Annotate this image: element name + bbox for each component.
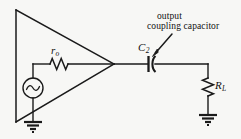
ro-zigzag <box>50 59 68 70</box>
rl-zigzag <box>203 78 214 96</box>
amplifier-bottom-edge <box>16 64 114 122</box>
label-ro-main: r <box>51 44 55 56</box>
ground-left-icon <box>24 122 42 132</box>
annotation-line-coupling-capacitor: coupling capacitor <box>147 21 219 32</box>
label-c2-sub: 2 <box>146 46 150 55</box>
ground-right-icon <box>199 115 217 125</box>
resistor-ro <box>33 59 114 70</box>
label-resistor-ro: ro <box>51 44 59 56</box>
label-capacitor-c2: C2 <box>138 41 149 53</box>
load-branch <box>203 64 214 115</box>
label-resistor-rl: RL <box>215 79 226 91</box>
ac-source-branch <box>23 64 43 122</box>
sine-wave-icon <box>27 86 40 91</box>
arrow-head <box>153 49 159 57</box>
amplifier-top-edge <box>16 10 114 64</box>
annotation-arrow <box>153 34 173 57</box>
circuit-figure: output coupling capacitor ro C2 RL <box>0 0 241 139</box>
label-ro-sub: o <box>56 49 60 58</box>
label-rl-sub: L <box>222 84 226 93</box>
annotation-line-output: output <box>157 11 182 22</box>
label-rl-main: R <box>215 79 222 91</box>
label-c2-main: C <box>138 41 145 53</box>
